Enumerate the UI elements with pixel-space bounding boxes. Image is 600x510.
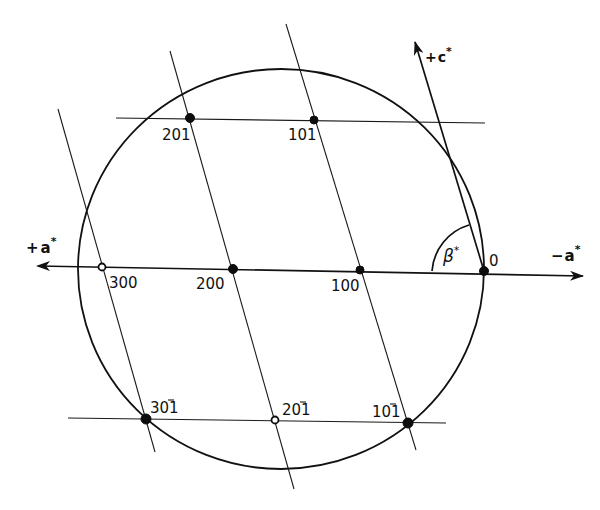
star: * [446,45,452,58]
label-20-1-bar: 1 [301,401,311,419]
label-origin: 0 [489,252,499,270]
star: * [575,243,581,256]
label-10-1-main: 10 [372,403,391,421]
point-10-1 [403,418,413,428]
label-plus-c-star: +c* [425,45,452,65]
point-300 [99,264,106,271]
sign: + [26,239,39,257]
row-line-h3 [58,109,155,452]
label-beta-star: β* [442,244,460,266]
row-line-l1 [116,118,485,123]
label-200: 200 [196,275,225,293]
symbol: β [442,246,454,266]
label-20-1: 201 [282,401,311,419]
label-30-1-bar: 1 [169,399,179,417]
sign: − [551,247,564,265]
symbol: a [41,239,51,257]
point-origin [480,267,489,276]
point-20-1 [272,417,279,424]
sphere-circle [78,69,484,469]
label-10-1-bar: 1 [391,403,401,421]
label-minus-a-star: −a* [551,243,581,265]
diagram-canvas: 201 101 300 200 100 0 301 201 101 +a* −a… [0,0,600,510]
label-plus-a-star: +a* [26,235,57,257]
label-20-1-main: 20 [282,401,301,419]
symbol: c [438,49,446,65]
point-100 [356,266,364,274]
label-201: 201 [162,126,191,144]
reciprocal-lattice-diagram: 201 101 300 200 100 0 301 201 101 +a* −a… [0,0,600,510]
sign: + [425,49,437,65]
point-101 [310,116,318,124]
star: * [454,244,460,257]
label-30-1: 301 [150,399,179,417]
label-10-1: 101 [372,403,401,421]
label-100: 100 [331,277,360,295]
point-200 [229,265,238,274]
star: * [51,235,57,248]
row-line-h1 [286,24,416,450]
label-30-1-main: 30 [150,399,169,417]
point-201 [186,114,195,123]
symbol: a [565,247,575,265]
label-101: 101 [288,126,317,144]
label-300: 300 [109,274,138,292]
